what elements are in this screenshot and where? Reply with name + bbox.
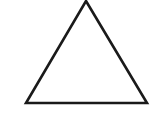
drawing-canvas xyxy=(0,0,155,117)
figure-svg xyxy=(0,0,155,117)
